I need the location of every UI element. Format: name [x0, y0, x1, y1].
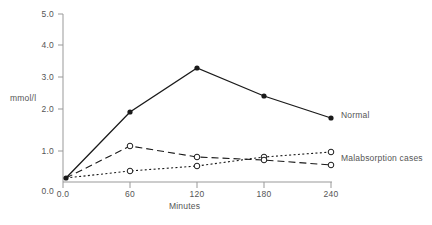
series-markers-malabsorption-a [127, 143, 334, 168]
series-markers-malabsorption-b [127, 149, 334, 174]
series-label-normal: Normal [341, 110, 370, 120]
y-axis-title: mmol/l [10, 93, 36, 103]
x-tick-label-0: 0.0 [45, 189, 81, 199]
x-tick-label-240: 240 [313, 189, 349, 199]
y-tick-label-2: 2.0 [20, 104, 54, 114]
line-chart: 5.0 4.0 3.0 2.0 1.0 0.0 mmol/l 0.0 60 12… [0, 0, 432, 225]
series-label-malabsorption: Malabsorption cases [341, 153, 423, 163]
x-tick-label-60: 60 [112, 189, 148, 199]
x-tick-label-120: 120 [179, 189, 215, 199]
x-tick-label-180: 180 [246, 189, 282, 199]
y-tick-label-3: 3.0 [20, 72, 54, 82]
x-axis-ticks [63, 182, 331, 188]
x-axis-title: Minutes [169, 201, 200, 211]
y-tick-label-1: 1.0 [20, 146, 54, 156]
y-tick-label-4: 4.0 [20, 40, 54, 50]
y-tick-label-5: 5.0 [20, 9, 54, 19]
y-axis-ticks [58, 14, 63, 151]
